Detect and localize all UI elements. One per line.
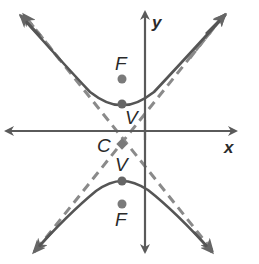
x-axis-label: x xyxy=(223,138,235,157)
lower-branch-arrow-left xyxy=(34,232,52,252)
focus-upper-point xyxy=(118,75,127,84)
vertex-lower-point xyxy=(118,177,127,186)
upper-branch-arrow-left xyxy=(21,16,40,36)
center-label: C xyxy=(97,135,111,156)
y-axis-label: y xyxy=(151,13,163,32)
focus-upper-label: F xyxy=(115,53,128,74)
upper-branch-arrow-right xyxy=(206,15,225,34)
vertex-lower-label: V xyxy=(115,154,130,175)
focus-lower-point xyxy=(118,200,127,209)
focus-lower-label: F xyxy=(115,209,128,230)
center-point xyxy=(116,138,127,149)
lower-branch-arrow-right xyxy=(194,232,212,252)
vertex-upper-label: V xyxy=(125,107,140,128)
hyperbola-diagram: x y F V C V F xyxy=(0,0,259,264)
